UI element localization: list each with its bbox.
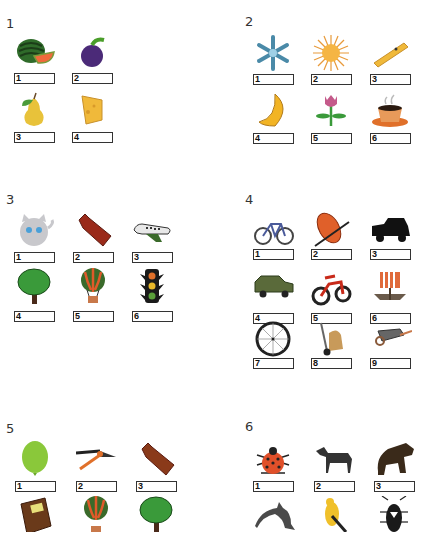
beetle-icon xyxy=(374,496,416,532)
group-2-label: 2 xyxy=(245,14,253,29)
hot-air-balloon-icon xyxy=(73,268,115,304)
sun-icon xyxy=(311,35,353,71)
clothespin-icon xyxy=(370,35,412,71)
answer-box[interactable]: 6 xyxy=(370,133,411,144)
answer-box[interactable]: 8 xyxy=(311,358,352,369)
answer-box[interactable]: 4 xyxy=(72,132,113,143)
motorcycle-icon xyxy=(311,270,353,306)
snowflake-icon xyxy=(253,35,295,71)
answer-box[interactable]: 4 xyxy=(253,133,294,144)
inflatable-raft-icon xyxy=(311,212,353,248)
traffic-light-icon xyxy=(132,268,174,304)
wheelbarrow-icon xyxy=(370,321,412,357)
tulip-icon xyxy=(311,92,353,128)
bear-icon xyxy=(374,441,416,477)
answer-box[interactable]: 1 xyxy=(14,73,55,84)
tree-icon xyxy=(14,268,56,304)
cheese-icon xyxy=(72,92,114,128)
answer-box[interactable]: 2 xyxy=(311,74,352,85)
book-icon xyxy=(15,496,57,532)
watermelon-icon xyxy=(14,34,56,70)
hot-air-balloon-icon xyxy=(76,496,118,532)
answer-box[interactable]: 3 xyxy=(14,132,55,143)
bicycle-icon xyxy=(253,212,295,248)
answer-box[interactable]: 1 xyxy=(253,249,294,260)
answer-box[interactable]: 1 xyxy=(253,74,294,85)
dolphin-icon xyxy=(253,498,295,534)
answer-box[interactable]: 3 xyxy=(136,481,177,492)
answer-box[interactable]: 1 xyxy=(15,481,56,492)
viking-ship-icon xyxy=(370,270,412,306)
hand-truck-icon xyxy=(311,321,353,357)
answer-box[interactable]: 2 xyxy=(311,249,352,260)
canary-icon xyxy=(314,496,356,532)
hot-water-bottle-icon xyxy=(73,212,115,248)
group-1-label: 1 xyxy=(6,16,14,31)
pruning-shears-icon xyxy=(76,441,118,477)
coffee-cup-icon xyxy=(370,92,412,128)
answer-box[interactable]: 2 xyxy=(76,481,117,492)
answer-box[interactable]: 1 xyxy=(253,481,294,492)
answer-box[interactable]: 2 xyxy=(314,481,355,492)
wheel-icon xyxy=(253,321,295,357)
group-5-label: 5 xyxy=(6,421,14,436)
answer-box[interactable]: 7 xyxy=(253,358,294,369)
pickup-truck-icon xyxy=(370,212,412,248)
kitten-icon xyxy=(14,212,56,248)
answer-box[interactable]: 6 xyxy=(132,311,173,322)
tree-icon xyxy=(136,496,178,532)
answer-box[interactable]: 3 xyxy=(132,252,173,263)
answer-box[interactable]: 3 xyxy=(374,481,415,492)
answer-box[interactable]: 4 xyxy=(14,311,55,322)
answer-box[interactable]: 9 xyxy=(370,358,411,369)
group-3-label: 3 xyxy=(6,192,14,207)
airplane-icon xyxy=(132,212,174,248)
answer-box[interactable]: 5 xyxy=(73,311,114,322)
answer-box[interactable]: 5 xyxy=(311,133,352,144)
plum-icon xyxy=(72,34,114,70)
answer-box[interactable]: 2 xyxy=(73,252,114,263)
answer-box[interactable]: 3 xyxy=(370,74,411,85)
answer-box[interactable]: 3 xyxy=(370,249,411,260)
moon-icon xyxy=(253,92,295,128)
answer-box[interactable]: 2 xyxy=(72,73,113,84)
cropped-text-fragment xyxy=(0,0,40,3)
balloon-icon xyxy=(15,441,57,477)
answer-box[interactable]: 1 xyxy=(14,252,55,263)
group-4-label: 4 xyxy=(245,192,253,207)
pear-icon xyxy=(14,92,56,128)
group-6-label: 6 xyxy=(245,419,253,434)
hot-water-bottle-icon xyxy=(136,441,178,477)
suv-icon xyxy=(253,270,295,306)
ladybug-icon xyxy=(253,441,295,477)
horse-icon xyxy=(314,441,356,477)
